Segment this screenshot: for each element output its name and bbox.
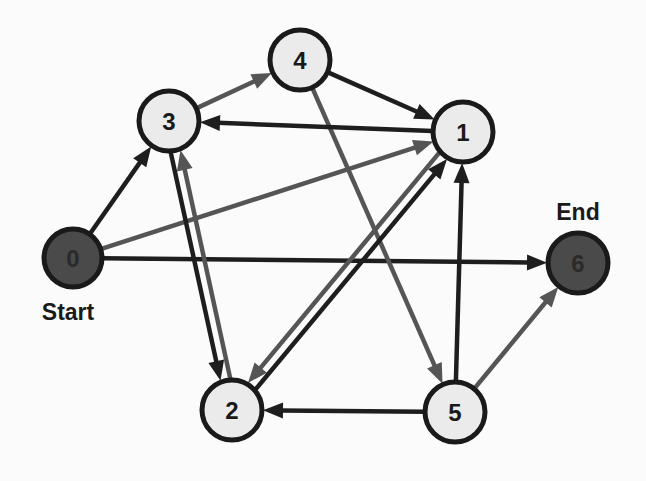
edge-5-to-2 bbox=[263, 402, 425, 418]
nodes-layer: 0123456 bbox=[44, 30, 608, 442]
node-label: 5 bbox=[448, 399, 461, 426]
node-1: 1 bbox=[433, 102, 493, 162]
node-label: 6 bbox=[571, 250, 584, 277]
arrowhead-icon bbox=[427, 362, 442, 384]
arrowhead-icon bbox=[263, 402, 283, 418]
node-6: 6 bbox=[548, 233, 608, 293]
node-3: 3 bbox=[139, 91, 199, 151]
arrowhead-icon bbox=[177, 150, 193, 171]
node-4: 4 bbox=[270, 30, 330, 90]
node-label: 3 bbox=[162, 108, 175, 135]
arrowhead-icon bbox=[527, 254, 547, 270]
graph-diagram: 0123456 StartEnd bbox=[0, 0, 646, 481]
arrowhead-icon bbox=[413, 104, 435, 119]
edge-0-to-6 bbox=[102, 254, 547, 270]
edge-4-to-1 bbox=[327, 72, 434, 119]
edge-5-to-6 bbox=[474, 287, 558, 389]
caption-end: End bbox=[556, 199, 599, 225]
arrowhead-icon bbox=[208, 360, 224, 381]
arrowhead-icon bbox=[250, 73, 272, 89]
node-label: 2 bbox=[225, 397, 238, 424]
arrowhead-icon bbox=[133, 146, 151, 167]
edge-3-to-4 bbox=[196, 73, 272, 108]
arrowhead-icon bbox=[454, 163, 470, 183]
node-5: 5 bbox=[425, 382, 485, 442]
arrowhead-icon bbox=[200, 115, 220, 131]
node-label: 1 bbox=[456, 119, 469, 146]
caption-start: Start bbox=[42, 299, 95, 325]
edge-1-to-3 bbox=[200, 115, 433, 131]
edge-3-to-2 bbox=[171, 151, 225, 380]
edge-5-to-1 bbox=[454, 163, 470, 382]
node-label: 4 bbox=[293, 47, 307, 74]
edge-2-to-3 bbox=[177, 150, 231, 379]
node-2: 2 bbox=[202, 380, 262, 440]
edge-0-to-3 bbox=[90, 146, 152, 234]
edge-1-to-2 bbox=[248, 152, 440, 383]
edge-2-to-1 bbox=[255, 159, 447, 390]
node-0: 0 bbox=[44, 229, 102, 287]
node-label: 0 bbox=[66, 245, 79, 272]
arrowhead-icon bbox=[412, 140, 433, 155]
